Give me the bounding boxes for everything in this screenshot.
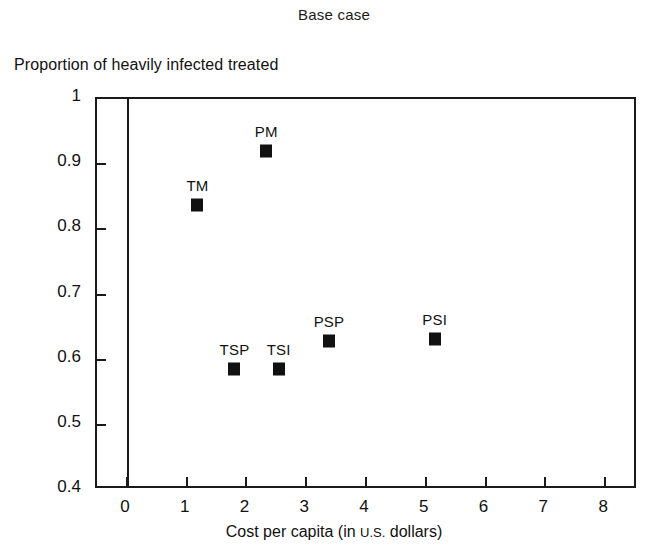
x-tick-label: 6 — [464, 497, 504, 517]
y-tick-label: 0.9 — [57, 151, 81, 171]
y-axis-title: Proportion of heavily infected treated — [14, 56, 278, 74]
y-tick-label: 0.7 — [57, 282, 81, 302]
data-point-label: PSI — [422, 311, 447, 328]
data-point-label: PSP — [314, 313, 345, 330]
x-tick-label: 0 — [105, 497, 145, 517]
x-axis-title-post: dollars) — [385, 523, 442, 540]
x-tick-label: 5 — [404, 497, 444, 517]
plot-area: TMPMTSPTSIPSPPSI — [95, 97, 636, 488]
x-tick-label: 3 — [284, 497, 324, 517]
data-point-marker[interactable] — [260, 145, 272, 158]
x-axis-title-smallcaps: U.S. — [360, 525, 385, 540]
x-axis-title-pre: Cost per capita (in — [226, 523, 360, 540]
data-point-label: TM — [186, 177, 208, 194]
y-tick-label: 0.5 — [57, 412, 81, 432]
y-tick-label: 0.8 — [57, 216, 81, 236]
y-tick-label: 1 — [72, 86, 81, 106]
x-tick-label: 1 — [165, 497, 205, 517]
x-tick-label: 4 — [344, 497, 384, 517]
data-point-marker[interactable] — [323, 335, 335, 348]
x-tick-label: 7 — [523, 497, 563, 517]
chart-title: Base case — [0, 6, 668, 23]
x-tick-label: 8 — [583, 497, 623, 517]
data-point-marker[interactable] — [228, 362, 240, 375]
x-tick-label: 2 — [224, 497, 264, 517]
y-tick-label: 0.6 — [57, 347, 81, 367]
y-tick-label: 0.4 — [57, 477, 81, 497]
x-axis-title: Cost per capita (in U.S. dollars) — [0, 523, 668, 541]
data-point-marker[interactable] — [273, 362, 285, 375]
scatter-series-layer: TMPMTSPTSIPSPPSI — [97, 99, 634, 486]
data-point-label: TSP — [220, 341, 250, 358]
data-point-label: TSI — [267, 341, 291, 358]
data-point-marker[interactable] — [191, 198, 203, 211]
data-point-marker[interactable] — [429, 333, 441, 346]
data-point-label: PM — [255, 123, 278, 140]
